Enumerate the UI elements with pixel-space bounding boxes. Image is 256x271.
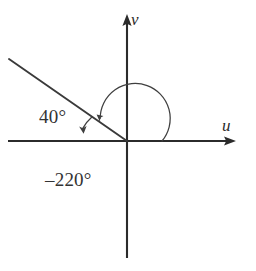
angle-label-neg220: –220°	[45, 170, 92, 189]
arc-neg220-path	[100, 83, 170, 141]
u-axis-label: u	[222, 117, 231, 134]
v-axis	[122, 14, 131, 258]
terminal-side-ray	[9, 59, 127, 141]
ray-line	[9, 59, 127, 141]
arc-40-path	[83, 117, 93, 129]
angle-arc-neg220	[97, 83, 171, 141]
angle-arc-40	[79, 117, 92, 134]
angle-label-40: 40°	[39, 107, 66, 126]
v-axis-label: v	[131, 11, 139, 28]
diagram-canvas	[0, 0, 256, 271]
angle-diagram-figure: v u 40° –220°	[0, 0, 256, 271]
